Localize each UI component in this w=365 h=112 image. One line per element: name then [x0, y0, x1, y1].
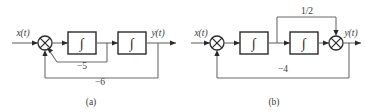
arrow-into-int1-a	[62, 40, 68, 45]
arrow-into-summer-a	[32, 40, 38, 45]
figure-container: ∫ ∫ −5 −6 x(t) y(	[0, 0, 365, 112]
block-diagram-a: ∫ ∫ −5 −6 x(t) y(	[0, 0, 183, 112]
arrow-into-int2-a	[112, 40, 118, 45]
caption-b: (b)	[268, 97, 279, 108]
diagram-b-canvas: ∫ ∫ 1/2	[183, 0, 365, 112]
arrow-outer-fb-b	[214, 50, 219, 56]
gain-label-inner-a: −5	[77, 61, 87, 71]
input-label-b: x(t)	[193, 28, 207, 39]
arrow-into-int2-b	[284, 40, 290, 45]
arrow-into-int1-b	[234, 40, 240, 45]
arrow-outer-fb-a	[42, 50, 47, 56]
output-label-a: y(t)	[150, 28, 164, 39]
gain-label-outer-b: −4	[278, 64, 288, 74]
arrow-output-b	[355, 40, 361, 45]
arrow-half-into-summer2-b	[333, 30, 338, 36]
output-label-b: y(t)	[343, 28, 357, 39]
caption-a: (a)	[86, 97, 97, 108]
block-diagram-b: ∫ ∫ 1/2	[183, 0, 365, 112]
arrow-into-summer2-b	[323, 40, 329, 45]
arrow-output-a	[170, 40, 176, 45]
arrow-into-summer1-b	[204, 40, 210, 45]
gain-label-half-b: 1/2	[301, 6, 313, 16]
input-label-a: x(t)	[15, 28, 29, 39]
gain-label-outer-a: −6	[95, 77, 105, 87]
diagram-a-canvas: ∫ ∫ −5 −6 x(t) y(	[0, 0, 183, 112]
